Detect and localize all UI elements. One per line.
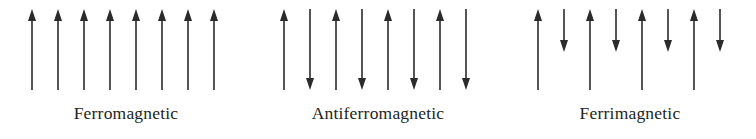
spin-arrow-down-long — [358, 9, 366, 90]
spin-arrow-down-short — [560, 9, 568, 52]
spin-arrow-up-long — [690, 9, 698, 90]
spin-arrow-up-long — [384, 9, 392, 90]
spin-arrow-up-long — [158, 9, 166, 90]
spin-arrow-up-long — [534, 9, 542, 90]
caption-ferrimagnetic: Ferrimagnetic — [504, 101, 756, 125]
spin-arrow-up-long — [586, 9, 594, 90]
panel-antiferromagnetic: Antiferromagnetic — [252, 0, 504, 139]
spin-arrow-up-long — [638, 9, 646, 90]
panel-ferromagnetic: Ferromagnetic — [0, 0, 252, 139]
spin-arrow-up-long — [332, 9, 340, 90]
spin-arrow-down-short — [716, 9, 724, 52]
spin-arrow-up-long — [210, 9, 218, 90]
spin-arrow-group — [252, 0, 504, 100]
spin-arrow-group — [504, 0, 756, 100]
magnetic-ordering-figure: Ferromagnetic Antiferromagnetic Ferrimag… — [0, 0, 756, 139]
spin-arrow-down-short — [664, 9, 672, 52]
caption-antiferromagnetic: Antiferromagnetic — [252, 101, 504, 125]
spin-arrow-down-long — [462, 9, 470, 90]
spin-arrow-up-long — [106, 9, 114, 90]
spin-arrow-up-long — [80, 9, 88, 90]
panel-ferrimagnetic: Ferrimagnetic — [504, 0, 756, 139]
arrow-field-ferrimagnetic — [504, 0, 756, 100]
caption-ferromagnetic: Ferromagnetic — [0, 101, 252, 125]
spin-arrow-up-long — [280, 9, 288, 90]
arrow-field-antiferromagnetic — [252, 0, 504, 100]
spin-arrow-group — [0, 0, 252, 100]
spin-arrow-down-long — [410, 9, 418, 90]
spin-arrow-down-long — [306, 9, 314, 90]
spin-arrow-up-long — [28, 9, 36, 90]
spin-arrow-down-short — [612, 9, 620, 52]
spin-arrow-up-long — [436, 9, 444, 90]
spin-arrow-up-long — [132, 9, 140, 90]
spin-arrow-up-long — [184, 9, 192, 90]
arrow-field-ferromagnetic — [0, 0, 252, 100]
spin-arrow-up-long — [54, 9, 62, 90]
